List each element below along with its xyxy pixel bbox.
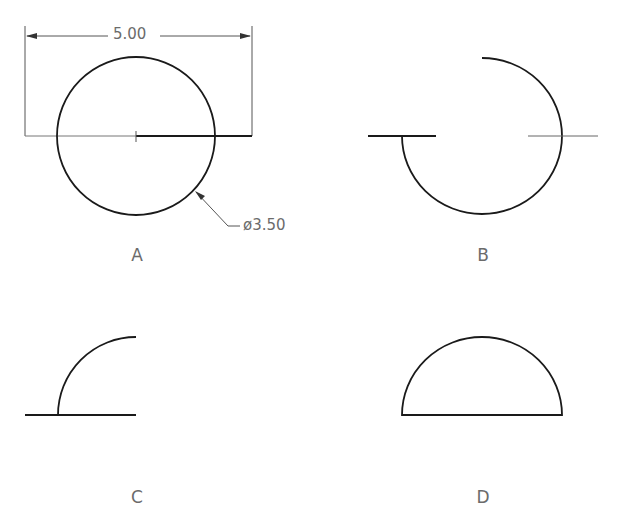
figure-d — [402, 337, 562, 415]
width-dimension-label: 5.00 — [110, 27, 149, 42]
figure-label-a: A — [131, 247, 143, 264]
arrowhead-right-icon — [240, 33, 251, 39]
leader-arrowhead-icon — [195, 191, 205, 200]
diameter-dimension-label: ø3.50 — [240, 218, 289, 233]
arrowhead-left-icon — [26, 33, 37, 39]
arc-c — [58, 337, 136, 415]
figure-b — [368, 58, 598, 214]
figure-label-d: D — [476, 489, 489, 506]
figure-c — [25, 337, 136, 415]
figure-label-b: B — [477, 247, 489, 264]
semicircle-d — [402, 337, 562, 415]
figure-label-c: C — [131, 489, 143, 506]
figure-a — [25, 26, 252, 226]
